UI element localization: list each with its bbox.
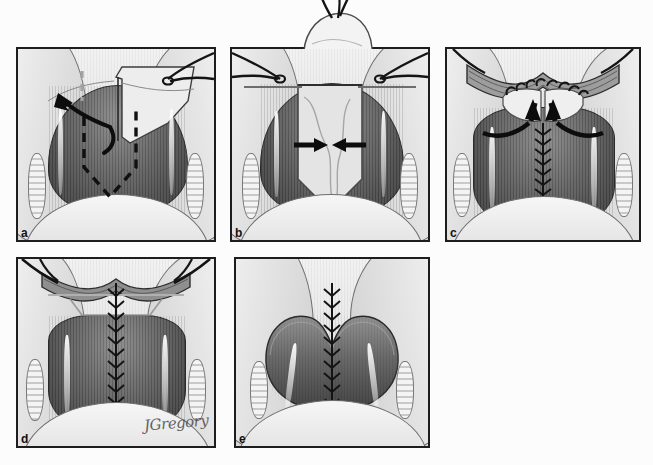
panel-a[interactable]: a	[16, 47, 216, 242]
panel-b-left-pillar	[274, 111, 279, 197]
panel-b-right-pillar	[381, 111, 386, 197]
panel-e-artwork	[236, 259, 428, 446]
panel-c-label: c	[450, 227, 457, 239]
panel-c-artwork	[447, 49, 639, 240]
panel-a-right-rugae	[186, 153, 204, 219]
panel-a-label: a	[21, 227, 28, 239]
panel-e-right-rugae	[396, 361, 414, 419]
panel-e[interactable]: e	[234, 257, 430, 448]
panel-a-left-rugae	[28, 153, 46, 219]
panel-a-left-pillar	[58, 109, 63, 195]
panel-e-left-rugae	[250, 361, 268, 419]
panel-d[interactable]: JGregory d	[16, 257, 216, 448]
panel-a-artwork	[18, 49, 214, 240]
panel-c-right-rugae	[615, 153, 633, 217]
panel-c-right-pillar	[591, 127, 597, 211]
figure-root: a	[0, 0, 653, 465]
panel-c-left-pillar	[489, 127, 495, 211]
panel-b[interactable]: b	[230, 47, 430, 242]
panel-b-right-rugae	[400, 153, 418, 219]
panel-b-left-rugae	[242, 153, 260, 219]
panel-a-right-pillar	[169, 109, 174, 195]
panel-d-artwork: JGregory	[18, 259, 214, 446]
panel-d-label: d	[21, 433, 28, 445]
panel-d-left-pillar	[64, 335, 70, 417]
panel-b-label: b	[235, 227, 242, 239]
panel-c-left-rugae	[453, 153, 471, 217]
panel-c[interactable]: c	[445, 47, 641, 242]
panel-b-artwork	[232, 49, 428, 240]
panel-d-right-pillar	[162, 335, 168, 417]
panel-e-label: e	[239, 433, 246, 445]
panel-d-left-rugae	[26, 359, 44, 421]
